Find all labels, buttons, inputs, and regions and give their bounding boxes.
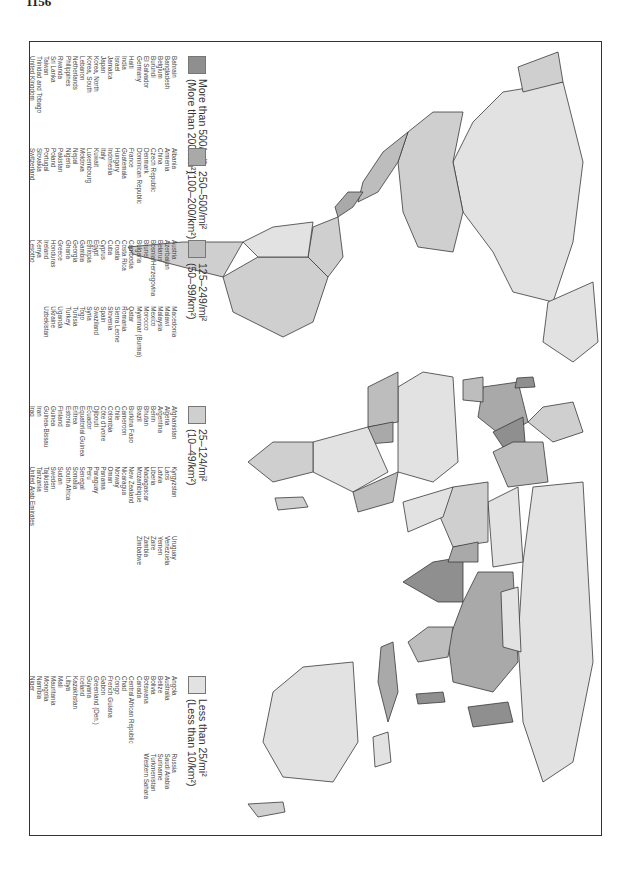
legend-country: Slovenia: [107, 306, 114, 357]
legend-country: Venezuela: [164, 536, 171, 565]
legend-country: Chad: [121, 676, 128, 744]
legend-country: Russia: [171, 754, 178, 799]
legend-country: France: [128, 148, 135, 204]
legend-country: Denmark: [143, 148, 150, 204]
legend-country: Gambia: [79, 240, 86, 296]
mongolia: [501, 587, 521, 652]
legend-country: Kenya: [36, 240, 43, 296]
central-america: [335, 192, 363, 217]
legend-country: Burundi: [150, 56, 157, 113]
legend-country: Panama: [100, 466, 107, 526]
legend-country: Guatemala: [121, 148, 128, 204]
legend-country: Tajikistan: [43, 466, 50, 526]
canada: [453, 82, 583, 302]
legend-country: Ghana: [65, 240, 72, 296]
legend-country: Bulgaria: [135, 240, 142, 296]
legend-country: Iran: [36, 406, 43, 456]
new-zealand: [248, 802, 285, 817]
legend-country: Sri Lanka: [50, 56, 57, 113]
legend-country: Uzbekistan: [43, 306, 50, 357]
legend-country: Azerbaijan: [164, 240, 171, 296]
legend-country: Senegal: [79, 466, 86, 526]
legend-country: Taiwan: [43, 56, 50, 113]
legend-group-25-124: 25–124/mi² (10–49/km²) AfghanistanAlgeri…: [29, 406, 208, 565]
legend-country: Brazil: [135, 406, 142, 456]
legend-country: Oman: [107, 466, 114, 526]
legend-country: Tunisia: [72, 306, 79, 357]
legend-country: Guinea-Bissau: [43, 406, 50, 456]
legend-country: India: [121, 56, 128, 113]
legend-country: Bolivia: [150, 676, 157, 744]
legend-subtitle: (10–49/km²): [186, 429, 197, 486]
legend-title: 250–500/mi²: [197, 171, 209, 229]
legend-country: Lebanon: [79, 56, 86, 113]
legend-country: Moldova: [79, 148, 86, 204]
peru-bolivia: [243, 222, 313, 257]
legend-country: Turkey: [65, 306, 72, 357]
legend-country: Central African Republic: [128, 676, 135, 744]
legend-country: Botswana: [143, 676, 150, 744]
north-africa: [398, 372, 458, 482]
legend-columns: AlbaniaArmeniaChinaCzech RepublicDenmark…: [29, 148, 178, 239]
legend-subtitle: (Less than 10/km²): [186, 699, 197, 787]
legend-country: Zimbabwe: [135, 536, 142, 565]
southeast-asia: [408, 627, 453, 662]
legend-country: Djibouti: [93, 406, 100, 456]
legend-title: 125–249/mi²: [197, 263, 209, 321]
legend-country: Jamaica: [107, 56, 114, 113]
legend-country: Morocco: [143, 306, 150, 357]
legend-country: Costa Rica: [121, 240, 128, 296]
legend-country: Swaziland: [93, 306, 100, 357]
legend-country: Liberia: [150, 466, 157, 526]
legend-country: Equatorial Guinea: [79, 406, 86, 456]
legend-country: Bangladesh: [164, 56, 171, 113]
legend-country: Cameroon: [121, 406, 128, 456]
legend-country: Dominican Republic: [135, 148, 142, 204]
legend-group-less-than-25: Less than 25/mi² (Less than 10/km²) Ango…: [29, 676, 208, 799]
legend-country: Ukraine: [50, 306, 57, 357]
legend-title: 25–124/mi²: [197, 429, 209, 482]
legend-country: Guyana: [86, 676, 93, 744]
australia: [263, 662, 358, 782]
brazil: [223, 257, 328, 337]
indonesia: [378, 642, 398, 722]
legend-country: Zambia: [143, 536, 150, 565]
legend-country: Latvia: [157, 466, 164, 526]
legend-country: Syria: [86, 306, 93, 357]
legend-country: Somalia: [72, 466, 79, 526]
legend-country: Libya: [65, 676, 72, 744]
legend-country: French Guiana: [107, 676, 114, 744]
legend-country: Romania: [121, 306, 128, 357]
legend-country: Trinidad and Tobago: [36, 56, 43, 113]
legend-country: Haiti: [128, 56, 135, 113]
legend-country: Belgium: [157, 56, 164, 113]
legend-country: Mexico: [150, 306, 157, 357]
legend-country: Belarus: [157, 240, 164, 296]
legend-country: El Salvador: [143, 56, 150, 113]
legend-swatch: [188, 676, 206, 694]
legend-country: Rwanda: [57, 56, 64, 113]
page-number: 1156: [26, 0, 51, 10]
legend-country: Côte d'Ivoire: [100, 406, 107, 456]
legend-country: Estonia: [65, 406, 72, 456]
legend-country: Togo: [79, 306, 86, 357]
legend-country: Italy: [100, 148, 107, 204]
legend-country: Eritrea: [72, 406, 79, 456]
legend-country: Niger: [29, 676, 36, 744]
legend-country: Kuwait: [93, 148, 100, 204]
legend-country: Namibia: [36, 676, 43, 744]
legend-column: RussiaSaudi ArabiaSurinameTurkmenistanWe…: [29, 754, 178, 799]
legend-country: Bahrain: [171, 56, 178, 113]
legend-country: Ireland: [43, 240, 50, 296]
legend-country: Zaire: [150, 536, 157, 565]
legend-country: Argentina: [157, 406, 164, 456]
legend-country: Bhutan: [143, 406, 150, 456]
legend-column: BahrainBangladeshBelgiumBurundiEl Salvad…: [29, 56, 178, 113]
legend-country: Turkmenistan: [150, 754, 157, 799]
legend-column: MacedoniaMalawiMalaysiaMexicoMoroccoMyan…: [29, 306, 178, 357]
legend-column: UruguayVenezuelaYemenZaireZambiaZimbabwe: [29, 536, 178, 565]
legend-country: Netherlands: [72, 56, 79, 113]
legend-country: Korea, North: [93, 56, 100, 113]
legend-column: AngolaAustraliaBelizeBoliviaBotswanaCana…: [29, 676, 178, 744]
legend-country: Indonesia: [107, 148, 114, 204]
